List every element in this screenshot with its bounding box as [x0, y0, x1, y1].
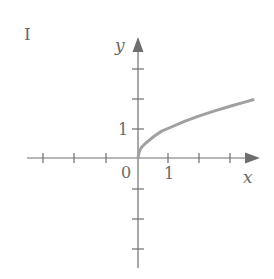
- coordinate-plane: I y x 0 1: [0, 0, 274, 279]
- x-axis-arrow-icon: [245, 153, 260, 164]
- y-unit-label: 1: [118, 120, 128, 139]
- origin-label: 0: [121, 163, 131, 182]
- y-axis-arrow-icon: [133, 37, 144, 52]
- x-axis-label: x: [243, 167, 253, 187]
- panel-label: I: [24, 24, 31, 44]
- sqrt-curve: [138, 100, 253, 158]
- graph-panel-I: I y x 0 1: [0, 0, 274, 279]
- y-axis-label: y: [114, 35, 125, 55]
- x-unit-label: 1: [164, 164, 174, 183]
